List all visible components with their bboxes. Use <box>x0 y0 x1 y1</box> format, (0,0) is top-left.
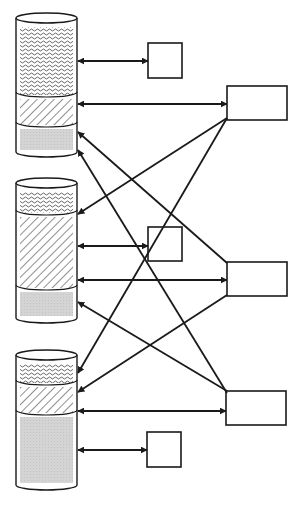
arrow-connector <box>78 150 227 393</box>
cylinder-segment-hatch <box>20 217 73 288</box>
cylinders-group <box>16 13 77 490</box>
cylinder-segment-gray <box>20 292 73 316</box>
small-box-3 <box>147 432 181 467</box>
large-box-2 <box>227 262 287 296</box>
cylinder-top <box>16 13 77 23</box>
cylinder-segment-gray <box>20 417 73 483</box>
small-box-1 <box>148 43 182 78</box>
large-box-1 <box>227 86 287 120</box>
cylinder-2 <box>16 178 77 323</box>
cylinder-segment-hatch <box>20 387 73 413</box>
cylinder-top <box>16 350 77 360</box>
storage-diagram <box>0 0 304 506</box>
cylinder-top <box>16 178 77 188</box>
arrow-connector <box>78 118 227 214</box>
cylinder-segment-gray <box>20 129 73 150</box>
cylinder-3 <box>16 350 77 490</box>
cylinder-segment-wavy <box>20 192 73 213</box>
cylinder-segment-wavy <box>20 364 73 383</box>
cylinder-1 <box>16 13 77 157</box>
large-box-3 <box>226 391 286 425</box>
cylinder-segment-wavy <box>20 27 73 95</box>
cylinder-segment-hatch <box>20 99 73 125</box>
